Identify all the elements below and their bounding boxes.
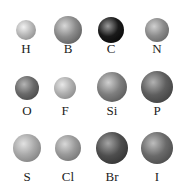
atom-sphere-n xyxy=(145,18,169,42)
atom-sphere-c xyxy=(98,17,124,43)
atom-label-s: S xyxy=(7,170,47,184)
atom-label-si: Si xyxy=(92,104,132,118)
atom-sphere-s xyxy=(13,134,41,162)
atom-label-br: Br xyxy=(92,170,132,184)
atom-sphere-b xyxy=(54,16,82,44)
atom-label-cl: Cl xyxy=(48,170,88,184)
atom-label-p: P xyxy=(137,104,177,118)
atom-label-i: I xyxy=(137,170,177,184)
atom-sphere-p xyxy=(141,71,173,103)
atom-sphere-h xyxy=(16,20,36,40)
atom-label-b: B xyxy=(48,42,88,56)
atom-sphere-cl xyxy=(55,135,81,161)
atom-sphere-br xyxy=(96,132,128,164)
atom-label-n: N xyxy=(137,42,177,56)
atom-label-h: H xyxy=(6,42,46,56)
atom-label-c: C xyxy=(91,42,131,56)
atom-sphere-f xyxy=(54,77,76,99)
atom-sphere-o xyxy=(15,76,39,100)
atom-sphere-si xyxy=(97,72,127,102)
atom-label-f: F xyxy=(45,104,85,118)
atom-label-o: O xyxy=(7,104,47,118)
atom-sphere-i xyxy=(141,132,173,164)
